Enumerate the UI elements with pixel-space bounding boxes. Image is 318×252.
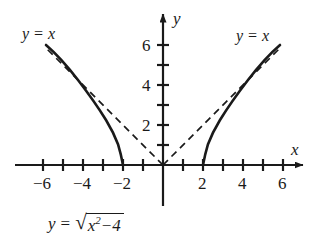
xtick-label-2: 2 [198,175,207,192]
radicand-exponent: 2 [95,214,101,226]
radicand-minus-sign: − [101,216,113,235]
xtick-label-4: 4 [238,175,247,192]
equation-lhs: y [48,215,56,232]
xtick-label-6: 6 [278,175,287,192]
xtick-label--2: −2 [113,175,131,192]
ytick-label-4: 4 [142,77,151,94]
equation-equals-sign: = [61,215,71,232]
asymptote-right-dashed [163,47,281,165]
radicand-constant: 4 [112,216,121,235]
y-axis-label: y [173,10,181,27]
xtick-label--4: −4 [73,175,91,192]
ytick-label-6: 6 [142,37,151,54]
ytick-label-2: 2 [142,117,151,134]
math-figure: −6 −4 −2 2 4 6 6 4 2 y x y = x y = x y =… [0,0,318,252]
curve-left-branch [46,45,123,165]
asymptote-left-dashed [45,47,163,165]
radical-expression: √ x2−4 [75,213,124,234]
asymptote-label-right: y = x [236,28,269,44]
xtick-label--6: −6 [33,175,51,192]
equation-caption: y = √ x2−4 [48,213,124,234]
x-axis-label: x [291,141,299,158]
radicand: x2−4 [86,213,124,234]
curve-right-branch [203,45,280,165]
asymptote-label-left: y = x [22,26,55,42]
